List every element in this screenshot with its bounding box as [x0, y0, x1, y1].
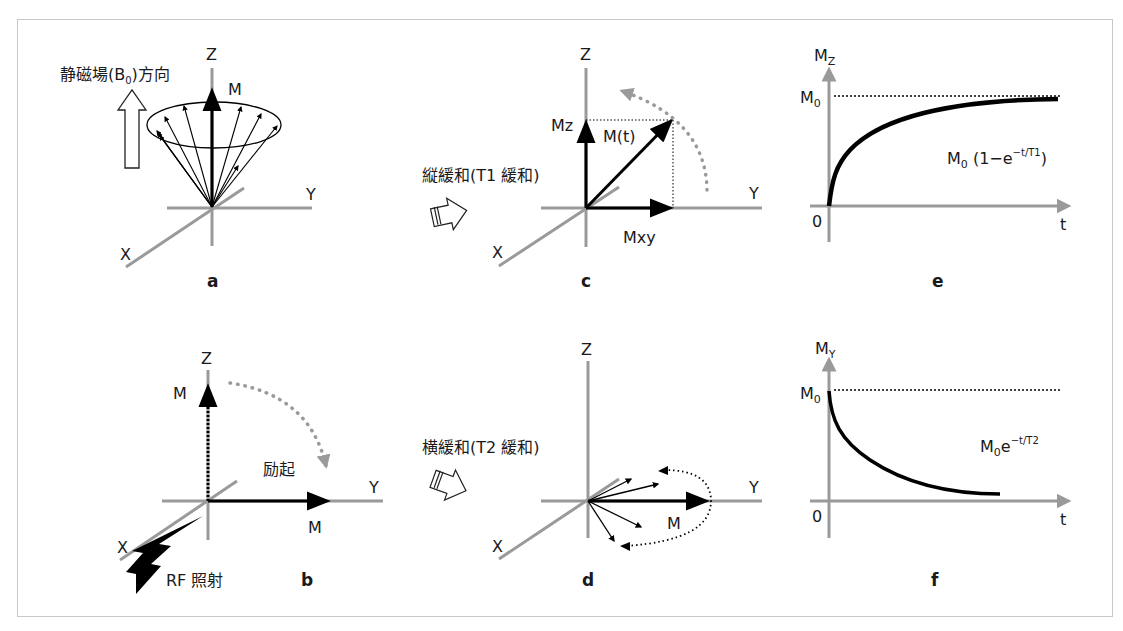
x-axis: [499, 479, 619, 559]
panel-c: Z Y X 縦緩和(T1 緩和) Mz M(t) Mxy c: [422, 45, 762, 291]
panel-d: Z Y X 横緩和(T2 緩和) M d: [422, 340, 762, 590]
panel-e-graph: MZ M0 0 t M0 (1−e−t/T1) e: [800, 46, 1066, 291]
y-axis-label: MY: [815, 339, 836, 361]
mt-label: M(t): [603, 127, 636, 146]
panel-letter-e: e: [932, 271, 944, 291]
panel-letter-d: d: [582, 570, 594, 590]
vector-m-label: M: [667, 514, 681, 533]
panel-letter-f: f: [931, 570, 939, 590]
excitation-label: 励起: [263, 460, 295, 479]
x-label: X: [117, 538, 128, 557]
transition-arrow-icon: [428, 464, 472, 506]
panel-b: Z Y X M 励起 M RF 照射 b: [117, 349, 383, 594]
m0-label: M0: [800, 88, 821, 110]
panel-letter-b: b: [301, 570, 313, 590]
vector-m-z-label: M: [173, 384, 187, 403]
precession-cone-icon: [147, 102, 281, 148]
dephasing-spins-icon: [588, 479, 658, 541]
field-direction-arrow-icon: [118, 90, 146, 168]
arc-arrowhead-icon: [658, 466, 668, 475]
panel-a: Z Y X 静磁場(B0)方向 M a: [60, 45, 316, 291]
mz-label: Mz: [551, 116, 573, 135]
mri-relaxation-diagram: Z Y X 静磁場(B0)方向 M a Z: [0, 0, 1123, 631]
rf-irradiation-label: RF 照射: [166, 571, 223, 590]
mxy-label: Mxy: [623, 228, 656, 247]
excitation-arc-arrow-icon: [230, 383, 326, 466]
y-axis-label: MZ: [814, 46, 836, 68]
panel-letter-a: a: [207, 271, 218, 291]
x-axis: [126, 188, 244, 267]
dephasing-arc-icon: [626, 470, 711, 546]
y-label: Y: [748, 478, 759, 497]
x-axis-label: t: [1060, 215, 1066, 234]
t2-formula: M0e−t/T2: [980, 435, 1039, 459]
panel-f-graph: MY M0 0 t M0e−t/T2 f: [800, 339, 1066, 590]
x-axis: [499, 187, 619, 266]
y-label: Y: [305, 185, 316, 204]
t2-decay-curve: [829, 391, 1000, 494]
m0-label: M0: [800, 384, 821, 406]
z-label: Z: [580, 45, 591, 64]
vector-m-y-label: M: [308, 518, 322, 537]
arc-arrowhead-icon: [620, 542, 630, 551]
z-label: Z: [581, 340, 592, 359]
y-label: Y: [368, 478, 379, 497]
x-label: X: [120, 245, 131, 264]
x-label: X: [492, 243, 503, 262]
origin-label: 0: [812, 212, 822, 231]
precessing-spins-icon: [141, 106, 277, 207]
y-label: Y: [748, 184, 759, 203]
field-direction-label: 静磁場(B0)方向: [60, 65, 170, 86]
x-axis-label: t: [1060, 510, 1066, 529]
panel-letter-c: c: [581, 271, 591, 291]
transition-arrow-icon: [429, 195, 470, 234]
origin-label: 0: [812, 507, 822, 526]
longitudinal-relaxation-caption: 縦緩和(T1 緩和): [422, 166, 540, 185]
x-axis: [120, 481, 237, 560]
x-label: X: [492, 537, 503, 556]
transverse-relaxation-caption: 横緩和(T2 緩和): [422, 438, 540, 457]
z-label: Z: [201, 349, 212, 368]
vector-m-label: M: [228, 80, 242, 99]
z-label: Z: [206, 45, 217, 64]
t1-formula: M0 (1−e−t/T1): [947, 147, 1047, 171]
